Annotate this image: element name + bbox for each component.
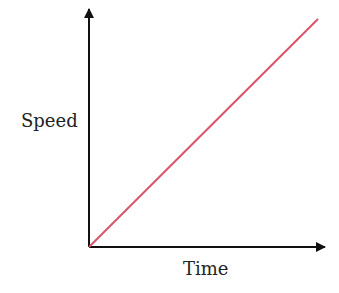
y-axis-label: Speed	[21, 110, 78, 131]
speed-time-graph: Speed Time	[0, 0, 339, 293]
graph-svg: Speed Time	[0, 0, 339, 293]
speed-line	[89, 19, 318, 247]
x-axis-label: Time	[183, 258, 228, 279]
